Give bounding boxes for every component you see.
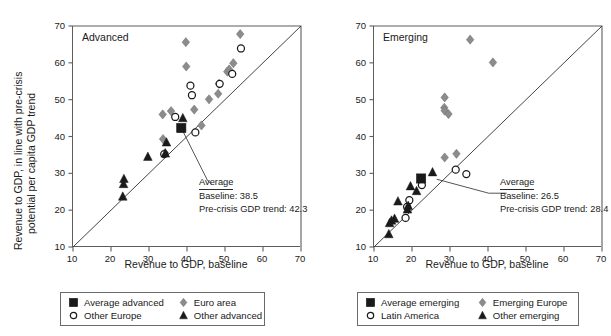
x-tick-label: 30	[438, 254, 460, 264]
y-tick-label: 40	[345, 132, 366, 142]
legend-item-label: Other advanced	[194, 310, 262, 321]
panel-tag-emerging: Emerging	[383, 31, 428, 43]
annotation-baseline: Baseline: 26.5	[500, 190, 608, 202]
annotation-average-emerging: Average Baseline: 26.5 Pre-crisis GDP tr…	[500, 176, 608, 215]
legend-item-label: Average advanced	[84, 297, 164, 308]
marker-diamond	[441, 153, 449, 162]
marker-circle	[463, 171, 470, 178]
y-tick-label: 30	[44, 168, 65, 178]
marker-circle	[229, 70, 236, 77]
legend-emerging: Average emergingEmerging EuropeLatin Ame…	[357, 292, 579, 326]
marker-circle	[237, 45, 244, 52]
marker-triangle	[144, 152, 153, 160]
marker-diamond	[453, 149, 461, 158]
marker-diamond	[190, 105, 198, 114]
legend-item[interactable]: Euro area	[178, 297, 262, 308]
marker-diamond	[479, 298, 486, 306]
marker-diamond	[182, 62, 190, 71]
marker-diamond	[466, 35, 474, 44]
legend-advanced: Average advancedEuro areaOther EuropeOth…	[60, 292, 265, 326]
marker-triangle	[394, 197, 403, 205]
marker-circle	[367, 312, 373, 318]
legend-item-label: Latin America	[381, 310, 439, 321]
legend-circle-icon	[68, 310, 79, 321]
marker-circle	[187, 82, 194, 89]
marker-triangle	[179, 113, 188, 121]
y-tick-label: 50	[345, 95, 366, 105]
marker-circle	[402, 214, 409, 221]
legend-item[interactable]: Other Europe	[68, 310, 164, 321]
marker-diamond	[159, 110, 167, 119]
marker-triangle	[478, 311, 486, 319]
y-axis-title-line1: Revenue to GDP, in line with pre-crisis	[12, 72, 24, 250]
y-tick-label: 60	[345, 58, 366, 68]
marker-diamond	[489, 58, 497, 67]
marker-diamond	[180, 298, 187, 306]
marker-circle	[192, 129, 199, 136]
marker-square	[417, 174, 426, 183]
y-axis-title-line2: potential per capita GDP trend	[25, 93, 37, 234]
x-tick-label: 10	[362, 254, 384, 264]
y-tick-label: 50	[44, 95, 65, 105]
annotation-header: Average	[500, 176, 534, 190]
panel-advanced: Revenue to GDP, in line with pre-crisis …	[0, 0, 305, 336]
marker-diamond	[198, 121, 206, 130]
x-tick-label: 70	[590, 254, 611, 264]
marker-circle	[188, 92, 195, 99]
series-average-advanced	[177, 123, 186, 132]
panel-tag-advanced: Advanced	[82, 31, 129, 43]
y-tick-label: 60	[44, 58, 65, 68]
marker-triangle	[428, 168, 437, 176]
legend-item-label: Euro area	[194, 297, 236, 308]
y-tick-label: 10	[44, 242, 65, 252]
x-tick-label: 50	[213, 254, 235, 264]
marker-square	[177, 123, 186, 132]
marker-triangle	[120, 174, 129, 182]
legend-item-label: Other emerging	[493, 310, 560, 321]
legend-item[interactable]: Emerging Europe	[477, 297, 571, 308]
marker-diamond	[236, 30, 244, 39]
marker-circle	[216, 80, 223, 87]
series-emerging-europe	[441, 35, 497, 162]
legend-item[interactable]: Other advanced	[178, 310, 262, 321]
x-tick-label: 40	[476, 254, 498, 264]
x-tick-label: 20	[400, 254, 422, 264]
legend-item-label: Average emerging	[381, 297, 459, 308]
annotation-trend: Pre-crisis GDP trend: 28.4	[500, 203, 608, 215]
legend-item[interactable]: Average emerging	[365, 297, 463, 308]
y-tick-label: 20	[345, 205, 366, 215]
y-tick-label: 40	[44, 132, 65, 142]
y-tick-label: 30	[345, 168, 366, 178]
y-tick-label: 10	[345, 242, 366, 252]
legend-item[interactable]: Other emerging	[477, 310, 571, 321]
marker-diamond	[182, 38, 190, 47]
x-tick-label: 30	[137, 254, 159, 264]
legend-square-icon	[68, 297, 79, 308]
annotation-header: Average	[199, 176, 233, 190]
legend-diamond-icon	[477, 297, 488, 308]
marker-circle	[70, 312, 76, 318]
x-tick-label: 10	[61, 254, 83, 264]
marker-diamond	[205, 95, 213, 104]
figure-root: Revenue to GDP, in line with pre-crisis …	[0, 0, 611, 336]
marker-circle	[452, 166, 459, 173]
legend-item[interactable]: Average advanced	[68, 297, 164, 308]
legend-item[interactable]: Latin America	[365, 310, 463, 321]
annotation-leader-line	[437, 179, 507, 193]
marker-triangle	[406, 182, 415, 190]
legend-triangle-icon	[477, 310, 488, 321]
marker-square	[69, 298, 77, 306]
annotation-baseline: Baseline: 38.5	[199, 190, 307, 202]
y-tick-label: 20	[44, 205, 65, 215]
marker-triangle	[179, 311, 187, 319]
x-tick-label: 60	[552, 254, 574, 264]
x-tick-label: 50	[514, 254, 536, 264]
x-tick-label: 40	[175, 254, 197, 264]
legend-circle-icon	[365, 310, 376, 321]
legend-item-label: Emerging Europe	[493, 297, 568, 308]
legend-triangle-icon	[178, 310, 189, 321]
y-tick-label: 70	[44, 21, 65, 31]
x-tick-label: 60	[251, 254, 273, 264]
series-average-emerging	[417, 174, 426, 183]
annotation-average-advanced: Average Baseline: 38.5 Pre-crisis GDP tr…	[199, 176, 307, 215]
